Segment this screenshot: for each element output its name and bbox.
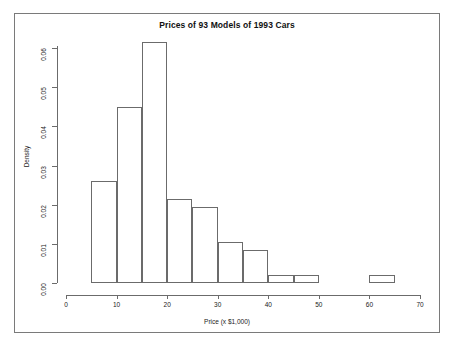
x-axis-tick-label: 50 bbox=[307, 301, 331, 308]
x-axis-tick-label: 30 bbox=[206, 301, 230, 308]
histogram-bar bbox=[243, 250, 268, 283]
histogram-bar bbox=[192, 207, 217, 283]
y-axis-tick-label: 0.04 bbox=[0, 121, 50, 131]
y-axis-title: Density bbox=[16, 145, 30, 163]
x-axis-tick bbox=[319, 295, 320, 299]
y-axis-tick bbox=[52, 126, 57, 127]
histogram-bar bbox=[369, 275, 394, 283]
y-axis-tick-label-text: 0.02 bbox=[40, 205, 47, 218]
x-axis-tick-label: 10 bbox=[105, 301, 129, 308]
y-axis-tick-label-text: 0.06 bbox=[40, 48, 47, 61]
y-axis-tick bbox=[52, 87, 57, 88]
histogram-bar bbox=[117, 107, 142, 283]
histogram-figure: Prices of 93 Models of 1993 Cars 0.000.0… bbox=[0, 0, 454, 345]
y-axis-tick-label-text: 0.00 bbox=[40, 283, 47, 296]
x-axis-tick-label: 40 bbox=[256, 301, 280, 308]
y-axis-tick bbox=[52, 244, 57, 245]
chart-title: Prices of 93 Models of 1993 Cars bbox=[0, 20, 454, 30]
y-axis-tick-label-text: 0.03 bbox=[40, 166, 47, 179]
x-axis-tick-label: 60 bbox=[357, 301, 381, 308]
histogram-bar bbox=[91, 181, 116, 283]
histogram-bar bbox=[167, 199, 192, 283]
plot-area bbox=[66, 43, 420, 283]
y-axis-title-text: Density bbox=[23, 146, 30, 168]
y-axis-tick bbox=[52, 205, 57, 206]
y-axis-tick-label: 0.05 bbox=[0, 82, 50, 92]
histogram-bar bbox=[294, 275, 319, 283]
x-axis-tick bbox=[369, 295, 370, 299]
y-axis-tick-label-text: 0.05 bbox=[40, 87, 47, 100]
y-axis-line bbox=[57, 46, 58, 283]
x-axis-tick-label: 0 bbox=[54, 301, 78, 308]
x-axis-tick bbox=[268, 295, 269, 299]
y-axis-tick-label-text: 0.01 bbox=[40, 244, 47, 257]
x-axis-tick-label: 70 bbox=[408, 301, 432, 308]
y-axis-tick-label: 0.02 bbox=[0, 200, 50, 210]
y-axis-tick bbox=[52, 48, 57, 49]
histogram-bar bbox=[268, 275, 293, 283]
x-axis-title: Price (x $1,000) bbox=[0, 318, 454, 325]
x-axis-tick bbox=[66, 295, 67, 299]
x-axis-tick-label: 20 bbox=[155, 301, 179, 308]
x-axis-tick bbox=[167, 295, 168, 299]
x-axis-line bbox=[66, 295, 420, 296]
y-axis-tick bbox=[52, 283, 57, 284]
x-axis-tick bbox=[420, 295, 421, 299]
y-axis-tick-label-text: 0.04 bbox=[40, 127, 47, 140]
histogram-bar bbox=[142, 42, 167, 283]
x-axis-tick bbox=[117, 295, 118, 299]
y-axis-tick-label: 0.06 bbox=[0, 43, 50, 53]
x-axis-tick bbox=[218, 295, 219, 299]
histogram-bar bbox=[218, 242, 243, 283]
y-axis-tick-label: 0.01 bbox=[0, 239, 50, 249]
y-axis-tick bbox=[52, 166, 57, 167]
y-axis-tick-label: 0.00 bbox=[0, 278, 50, 288]
